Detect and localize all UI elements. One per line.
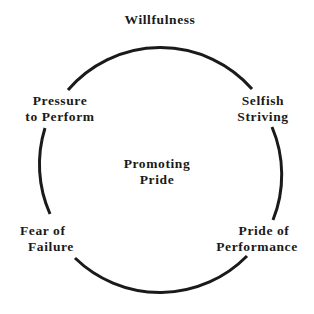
title-willfulness: Willfulness — [112, 12, 208, 28]
node-pride-of-performance: Pride of Performance — [206, 223, 308, 255]
arc-top — [68, 48, 252, 90]
node-pressure-to-perform: Pressure to Perform — [15, 93, 105, 125]
node-fear-of-failure: Fear of Failure — [20, 223, 96, 255]
arc-left — [39, 128, 50, 214]
node-selfish-striving: Selfish Striving — [228, 93, 298, 125]
center-promoting-pride: Promoting Pride — [115, 156, 199, 188]
arc-right — [272, 127, 282, 220]
arc-bottom — [75, 256, 247, 292]
